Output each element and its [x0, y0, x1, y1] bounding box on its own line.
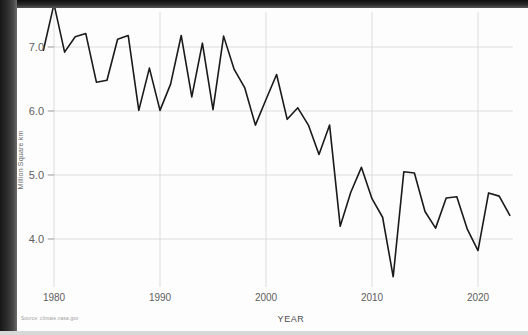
- x-tick-label: 2020: [467, 292, 490, 303]
- y-axis-ticks-group: 4.05.06.07.0: [29, 41, 54, 245]
- x-tick-label: 1990: [149, 292, 172, 303]
- chart-svg: 4.05.06.07.0 19801990200020102020 YEAR M…: [0, 0, 528, 335]
- y-tick-label: 4.0: [29, 233, 44, 245]
- scan-edge-top: [0, 0, 528, 8]
- y-tick-label: 6.0: [29, 105, 44, 117]
- arctic-sea-ice-line-chart: 4.05.06.07.0 19801990200020102020 YEAR M…: [0, 0, 528, 335]
- x-tick-label: 2010: [361, 292, 384, 303]
- x-tick-label: 2000: [255, 292, 278, 303]
- sea-ice-extent-series: [43, 4, 509, 277]
- gridlines-group: [47, 12, 513, 287]
- x-axis-ticks-group: 19801990200020102020: [43, 292, 490, 303]
- x-axis-title: YEAR: [278, 314, 305, 324]
- scan-edge-bottom: [0, 331, 528, 335]
- y-axis-title: Million Square km: [17, 130, 25, 189]
- y-tick-label: 5.0: [29, 169, 44, 181]
- screenshot-root: 4.05.06.07.0 19801990200020102020 YEAR M…: [0, 0, 528, 335]
- y-tick-label: 7.0: [29, 41, 44, 53]
- source-attribution: Source: climate.nasa.gov: [21, 316, 79, 321]
- data-line-group: [43, 4, 509, 277]
- scan-edge-left: [0, 0, 17, 335]
- x-tick-label: 1980: [43, 292, 66, 303]
